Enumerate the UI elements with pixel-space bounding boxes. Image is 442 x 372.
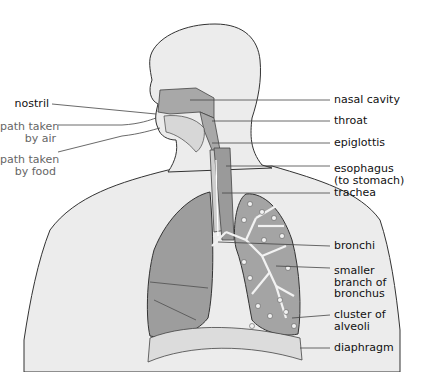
- label-air-path: path taken by air: [0, 121, 56, 144]
- label-food-path: path taken by food: [0, 154, 56, 177]
- label-esophagus: esophagus (to stomach): [334, 163, 404, 186]
- label-trachea: trachea: [334, 187, 376, 199]
- label-epiglottis: epiglottis: [334, 137, 385, 149]
- label-smaller-branch: smaller branch of bronchus: [334, 265, 386, 300]
- label-alveoli: cluster of alveoli: [334, 309, 386, 332]
- label-nostril: nostril: [0, 98, 49, 110]
- label-throat: throat: [334, 115, 367, 127]
- label-bronchi: bronchi: [334, 240, 375, 252]
- label-nasal-cavity: nasal cavity: [334, 94, 400, 106]
- label-diaphragm: diaphragm: [334, 342, 394, 354]
